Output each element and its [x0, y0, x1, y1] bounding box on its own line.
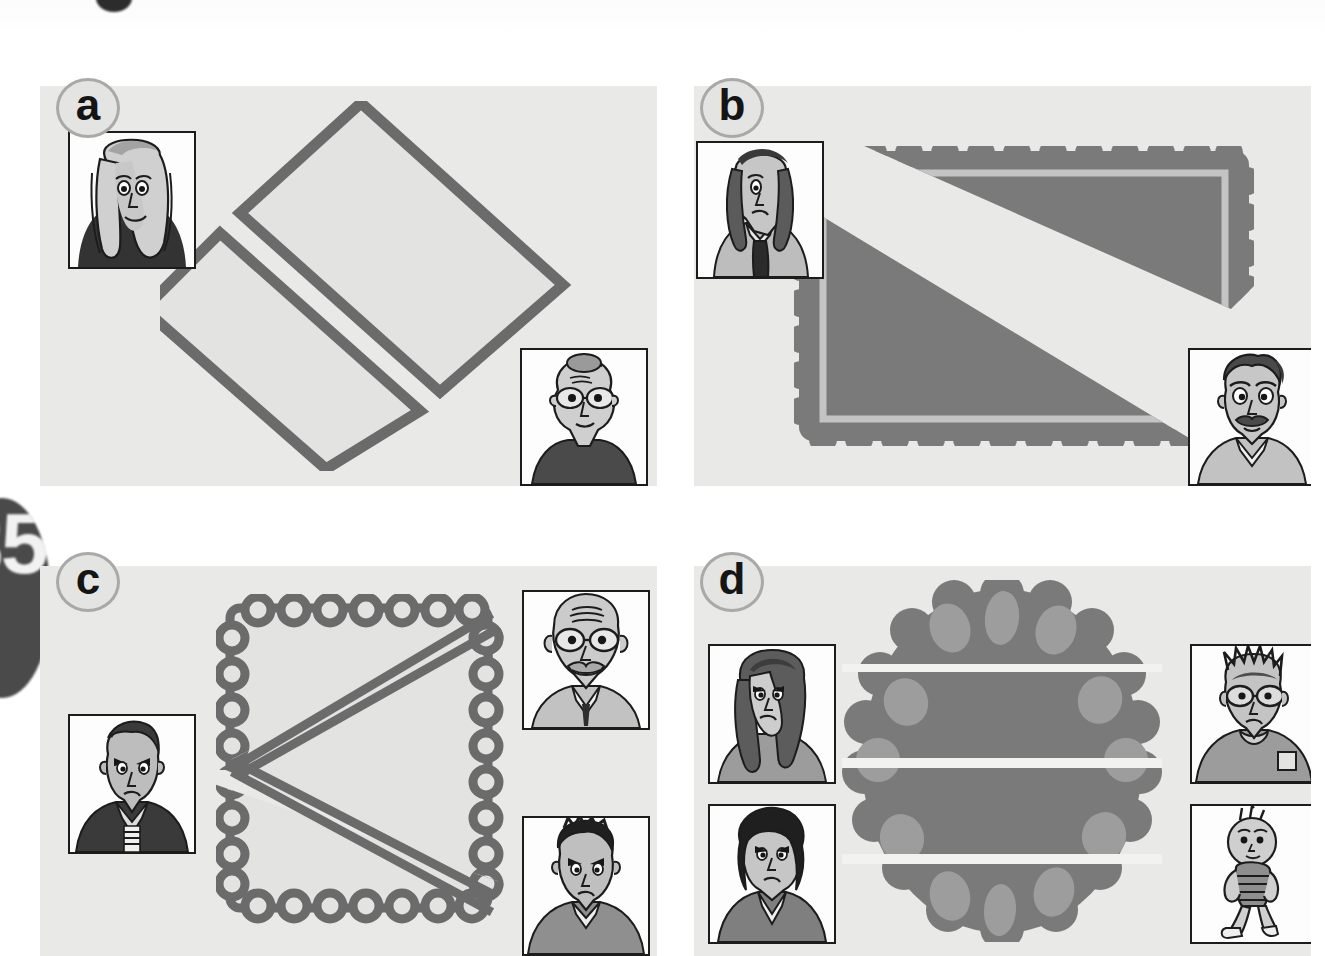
panel-b — [694, 86, 1311, 486]
portrait-curly-haired-woman — [68, 131, 196, 269]
panel-label-d: d — [700, 552, 764, 612]
panel-label-a: a — [56, 78, 120, 138]
panel-a — [40, 86, 657, 486]
panel-label-a-text: a — [76, 83, 100, 127]
shape-square-rotated-45 — [160, 101, 580, 471]
panel-label-c-text: c — [76, 557, 100, 601]
portrait-curly-haired-woman-tie — [696, 141, 824, 279]
panel-c — [40, 566, 657, 956]
portrait-toddler — [1190, 804, 1311, 944]
panel-d — [694, 566, 1311, 956]
shape-scalloped-square-three-triangles — [216, 594, 516, 934]
shape-chocolate-chip-cookie — [842, 580, 1162, 942]
portrait-short-haired-girl — [708, 804, 836, 944]
portrait-bald-man-glasses — [522, 590, 650, 730]
panel-label-c: c — [56, 552, 120, 612]
portrait-dark-haired-boy — [522, 816, 650, 956]
portrait-moustached-man — [1188, 348, 1311, 486]
shape-scalloped-rectangle-diagonal — [794, 146, 1254, 446]
panel-label-b: b — [700, 78, 764, 138]
panel-label-d-text: d — [719, 557, 746, 601]
portrait-elderly-woman-glasses — [520, 348, 648, 486]
portrait-long-haired-girl — [708, 644, 836, 784]
portrait-angry-boy-jacket — [68, 714, 196, 854]
page-top-gradient — [0, 0, 1325, 34]
panel-label-b-text: b — [719, 83, 746, 127]
portrait-spiky-boy-glasses — [1190, 644, 1311, 784]
